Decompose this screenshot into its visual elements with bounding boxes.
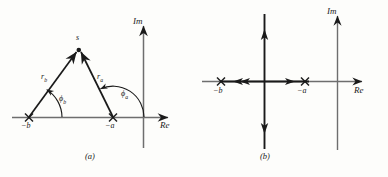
vector-ra	[81, 52, 113, 117]
angle-label-phi-b-subscript: b	[63, 99, 66, 105]
angle-label-phi-b: ϕb	[59, 95, 66, 105]
vector-rb	[29, 52, 77, 117]
pole-label-minus-b-b: −b	[213, 87, 222, 95]
point-marker-s	[77, 48, 82, 53]
vector-label-rb-subscript: b	[44, 77, 47, 83]
angle-label-phi-a-subscript: a	[125, 94, 128, 100]
imaginary-axis-label-a: Im	[133, 17, 143, 26]
panel-a-caption: (a)	[85, 152, 95, 161]
angle-label-phi-a: ϕa	[121, 90, 128, 100]
imaginary-axis-label-b: Im	[327, 7, 337, 16]
real-axis-label-b: Re	[354, 86, 364, 95]
vector-label-rb: rb	[41, 73, 47, 83]
panel-a: Im Re s −b −a rb ra ϕb ϕa (a)	[0, 0, 194, 177]
panel-b-caption: (b)	[260, 152, 270, 161]
point-label-s: s	[76, 34, 79, 42]
pole-label-minus-a-b: −a	[297, 87, 306, 95]
pole-label-minus-a-a: −a	[105, 122, 114, 130]
pole-label-minus-b-a: −b	[21, 122, 30, 130]
vector-label-ra: ra	[97, 73, 103, 83]
vector-label-ra-subscript: a	[100, 77, 103, 83]
panel-a-drawing	[0, 0, 194, 177]
panel-b: Im Re −b −a (b)	[194, 0, 388, 177]
real-axis-label-a: Re	[160, 121, 170, 130]
root-figure: Im Re s −b −a rb ra ϕb ϕa (a)	[0, 0, 388, 177]
